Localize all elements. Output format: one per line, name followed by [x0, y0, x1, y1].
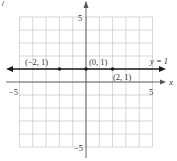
y-axis-arrow-icon	[84, 1, 89, 8]
equation-label: y = 1	[149, 56, 168, 66]
point-label-2-1: (2, 1)	[113, 72, 132, 82]
coordinate-plane-graph: x −5 5 5 −5 (−2, 1) (0, 1) (2, 1) y = 1	[0, 0, 177, 161]
cropped-fragment-mark	[2, 1, 4, 6]
point-label-neg2-1: (−2, 1)	[25, 57, 48, 67]
point-0-1	[84, 67, 88, 71]
point-label-0-1: (0, 1)	[89, 57, 108, 67]
tick-label-x-pos5: 5	[149, 87, 153, 97]
tick-label-y-neg5: −5	[74, 143, 83, 153]
line-left-arrow-icon	[6, 66, 13, 72]
point-neg2-1	[58, 67, 62, 71]
x-axis: x	[6, 77, 173, 87]
line-right-arrow-icon	[159, 66, 166, 72]
tick-label-y-pos5: 5	[78, 13, 82, 23]
x-axis-arrow-icon	[160, 80, 166, 85]
y-axis	[84, 1, 89, 158]
tick-label-x-neg5: −5	[9, 87, 18, 97]
point-2-1	[111, 67, 115, 71]
x-axis-label: x	[168, 77, 173, 87]
